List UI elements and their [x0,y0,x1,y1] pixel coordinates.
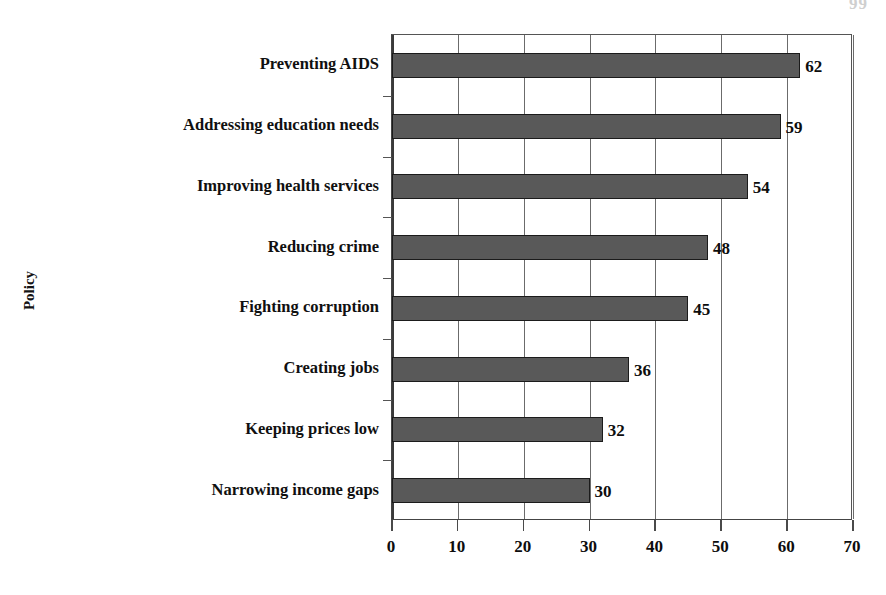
x-axis-tick-label: 0 [387,537,396,557]
x-axis-tick [457,520,459,531]
bar [392,478,590,503]
x-axis-tick [852,520,854,531]
x-axis-tick-label: 40 [646,537,663,557]
gridline-0 [392,35,394,519]
gridline-50 [721,35,722,519]
bar-value-label: 59 [786,114,803,139]
bar-value-label: 48 [713,235,730,260]
y-axis-tick [383,96,392,97]
y-axis-tick [383,157,392,158]
bar-value-label: 30 [595,478,612,503]
category-label: Improving health services [197,174,379,198]
x-axis-tick [589,520,591,531]
category-label: Keeping prices low [245,417,379,441]
x-axis-tick-label: 30 [580,537,597,557]
bar [392,53,800,78]
x-axis-tick [720,520,722,531]
y-axis-tick [383,217,392,218]
bar [392,114,781,139]
gridline-10 [458,35,459,519]
category-label: Fighting corruption [239,295,379,319]
y-axis-tick [383,339,392,340]
bar [392,235,708,260]
bar [392,417,603,442]
category-label: Creating jobs [284,356,380,380]
x-axis-tick-label: 10 [448,537,465,557]
gridline-20 [524,35,525,519]
y-axis-tick [383,460,392,461]
x-axis-tick-label: 60 [778,537,795,557]
x-axis-tick [654,520,656,531]
x-axis-tick-label: 20 [514,537,531,557]
category-label: Addressing education needs [183,113,379,137]
y-axis-tick [383,278,392,279]
x-axis-tick-label: 70 [844,537,861,557]
x-axis: 010203040506070 [391,520,852,580]
bar [392,174,748,199]
x-axis-tick [391,520,393,531]
bar [392,296,688,321]
horizontal-bar-chart: Policy Preventing AIDSAddressing educati… [0,0,886,595]
gridline-60 [787,35,788,519]
bar-value-label: 32 [608,417,625,442]
y-axis-tick [383,400,392,401]
y-axis-title-text: Policy [22,270,39,309]
y-axis-title: Policy [10,230,50,350]
bar-value-label: 45 [693,296,710,321]
x-axis-tick-label: 50 [712,537,729,557]
x-axis-tick [786,520,788,531]
category-label: Narrowing income gaps [212,478,379,502]
x-axis-tick [523,520,525,531]
bar-value-label: 36 [634,357,651,382]
category-axis-labels: Preventing AIDSAddressing education need… [60,34,385,520]
bar-value-label: 54 [753,174,770,199]
plot-area: 6259544845363230 [391,34,852,520]
gridline-40 [655,35,656,519]
bar-value-label: 62 [805,53,822,78]
category-label: Preventing AIDS [260,52,379,76]
bar [392,357,629,382]
gridline-70 [853,35,854,519]
gridline-30 [590,35,591,519]
category-label: Reducing crime [268,235,379,259]
